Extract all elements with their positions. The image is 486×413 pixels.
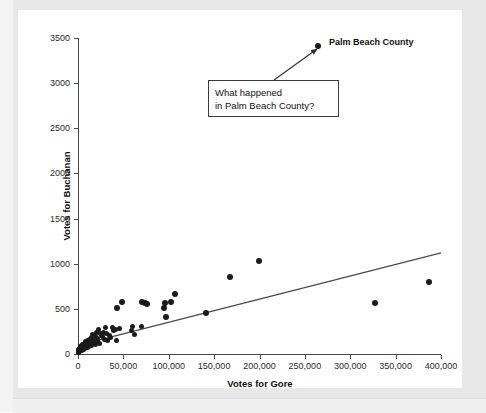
y-tick [74, 83, 78, 84]
y-tick [74, 173, 78, 174]
palm-beach-county-label: Palm Beach County [329, 37, 414, 47]
y-tick [74, 219, 78, 220]
x-tick-label: 350,000 [379, 361, 412, 371]
y-tick [74, 309, 78, 310]
plot-card [18, 10, 462, 388]
x-tick-label: 250,000 [289, 361, 322, 371]
figure-bottom-strip [13, 398, 486, 413]
x-tick [169, 355, 170, 359]
y-tick-label: 0 [65, 349, 70, 359]
x-tick [350, 355, 351, 359]
x-tick-label: 0 [75, 361, 80, 371]
y-tick-label: 2500 [50, 123, 70, 133]
callout-box: What happened in Palm Beach County? [208, 80, 339, 117]
y-tick-label: 3500 [50, 33, 70, 43]
x-tick-label: 200,000 [243, 361, 276, 371]
y-tick-label: 1000 [50, 259, 70, 269]
x-tick [441, 355, 442, 359]
x-tick [305, 355, 306, 359]
x-tick-label: 100,000 [152, 361, 185, 371]
x-tick [123, 355, 124, 359]
x-tick [78, 355, 79, 359]
y-tick-label: 500 [55, 304, 70, 314]
x-tick [260, 355, 261, 359]
x-tick [214, 355, 215, 359]
y-tick [74, 38, 78, 39]
x-tick-label: 150,000 [198, 361, 231, 371]
y-tick [74, 128, 78, 129]
callout-text: What happened in Palm Beach County? [215, 86, 314, 112]
y-axis-line [78, 38, 79, 354]
y-tick [74, 354, 78, 355]
y-axis-title: Votes for Buchanan [61, 151, 72, 240]
x-tick [396, 355, 397, 359]
page-gutter [0, 0, 14, 412]
y-tick-label: 3000 [50, 78, 70, 88]
x-tick-label: 400,000 [425, 361, 458, 371]
x-tick-label: 300,000 [334, 361, 367, 371]
x-axis-title: Votes for Gore [227, 378, 292, 389]
y-tick [74, 264, 78, 265]
x-tick-label: 50,000 [110, 361, 138, 371]
